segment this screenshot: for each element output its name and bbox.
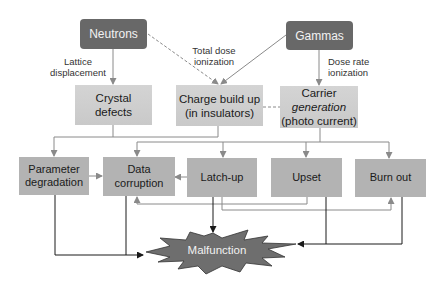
malfunction-label: Malfunction	[180, 244, 254, 256]
carrier-generation-box: Carrier generation (photo current)	[280, 86, 358, 128]
burnout-label: Burn out	[370, 171, 412, 185]
bus-carrier-to-effects	[137, 128, 389, 158]
data-line-2: corruption	[115, 177, 164, 191]
data-corruption-box: Data corruption	[103, 157, 175, 196]
crystal-line-1: Crystal	[96, 91, 132, 105]
gammas-label: Gammas	[295, 29, 344, 43]
neutrons-box: Neutrons	[80, 19, 147, 49]
dose-rate-line-1: Dose rate	[328, 56, 378, 67]
carrier-line-2: generation	[292, 100, 346, 114]
dose-rate-line-2: ionization	[328, 67, 378, 78]
total-dose-line-2: ionization	[184, 56, 244, 67]
total-dose-line-1: Total dose	[184, 45, 244, 56]
gammas-box: Gammas	[286, 21, 353, 50]
carrier-line-1: Carrier	[301, 86, 336, 100]
charge-line-2: (in insulators)	[185, 106, 254, 120]
upset-box: Upset	[271, 158, 342, 197]
data-line-1: Data	[127, 163, 150, 177]
lattice-displacement-label: Lattice displacement	[48, 56, 108, 78]
latchup-label: Latch-up	[201, 171, 244, 185]
lattice-line-1: Lattice	[48, 56, 108, 67]
total-dose-label: Total dose ionization	[184, 45, 244, 67]
burnout-box: Burn out	[355, 159, 426, 197]
crystal-defects-box: Crystal defects	[75, 85, 152, 125]
charge-line-1: Charge build up	[179, 92, 260, 106]
parameter-degradation-box: Parameter degradation	[19, 157, 89, 195]
charge-buildup-box: Charge build up (in insulators)	[176, 85, 263, 126]
latchup-box: Latch-up	[187, 158, 257, 197]
crystal-line-2: defects	[95, 105, 132, 119]
param-line-1: Parameter	[28, 163, 79, 177]
dose-rate-label: Dose rate ionization	[328, 56, 378, 78]
lattice-line-2: displacement	[48, 67, 108, 78]
upset-label: Upset	[292, 171, 321, 185]
carrier-line-3: (photo current)	[281, 114, 356, 128]
bus-crystal-charge-to-parameter	[54, 125, 218, 156]
param-line-2: degradation	[25, 176, 83, 190]
neutrons-label: Neutrons	[89, 27, 138, 41]
